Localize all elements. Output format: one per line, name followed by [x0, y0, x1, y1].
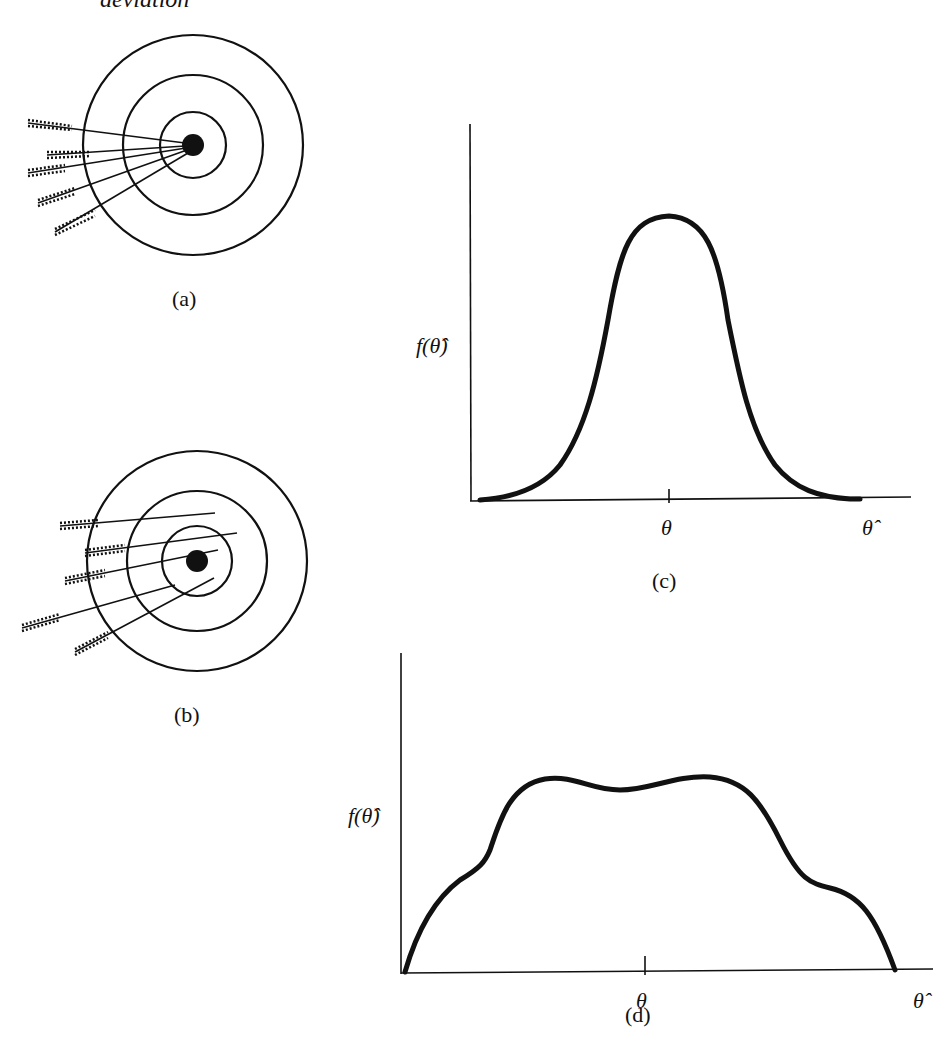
fletching-a	[28, 120, 95, 235]
chart-c-tick-label: θ	[661, 515, 672, 541]
target-b	[22, 451, 307, 671]
chart-d-axes	[401, 653, 933, 975]
fletching-b	[22, 520, 125, 655]
panel-label-a: (a)	[172, 286, 196, 312]
chart-d-tick-label: θ	[636, 988, 647, 1014]
chart-d-xlabel: θ̂	[913, 988, 924, 1014]
target-a	[28, 35, 303, 255]
panel-label-c: (c)	[652, 568, 676, 594]
chart-c-ylabel: f(θ̂)	[416, 333, 448, 359]
figure-canvas	[0, 0, 952, 1037]
chart-d-ylabel: f(θ̂)	[348, 803, 380, 829]
chart-d-curve	[405, 777, 895, 972]
chart-c-curve	[480, 216, 860, 500]
chart-c-axes	[470, 124, 911, 503]
chart-d	[401, 653, 933, 975]
panel-label-b: (b)	[174, 702, 200, 728]
chart-c-xlabel: θ̂	[862, 515, 873, 541]
chart-c	[470, 124, 911, 503]
